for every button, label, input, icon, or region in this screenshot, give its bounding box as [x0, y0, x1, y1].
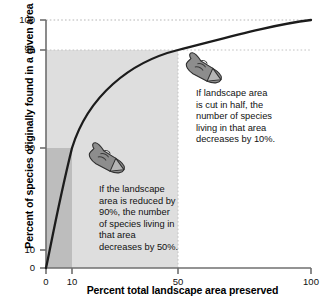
annotation-lower-line-3: of species living in — [99, 219, 178, 231]
y-axis-ticks — [40, 20, 46, 268]
x-axis-title: Percent total landscape area preserved — [40, 284, 325, 296]
annotation-lower: If the landscape area is reduced by 90%,… — [99, 184, 178, 254]
annotation-upper-line-3: living in that area — [196, 123, 275, 135]
annotation-upper: If landscape area is cut in half, the nu… — [196, 88, 275, 146]
annotation-upper-line-0: If landscape area — [196, 88, 275, 100]
annotation-upper-line-2: number of species — [196, 111, 275, 123]
species-area-chart: 100 90 50 10 0 0 10 50 100 Percent of sp… — [0, 0, 325, 301]
annotation-lower-line-4: that area — [99, 230, 178, 242]
pointing-hand-icon-lower — [84, 142, 130, 180]
chart-canvas — [0, 0, 325, 301]
annotation-upper-line-4: decreases by 10%. — [196, 134, 275, 146]
y-axis-title: Percent of species originally found in a… — [23, 1, 35, 251]
annotation-upper-line-1: is cut in half, the — [196, 100, 275, 112]
pointing-hand-icon-upper — [181, 52, 227, 90]
y-tick-label-0: 0 — [5, 262, 35, 273]
annotation-lower-line-0: If the landscape — [99, 184, 178, 196]
x-axis-ticks — [46, 268, 311, 274]
annotation-lower-line-2: 90%, the number — [99, 207, 178, 219]
annotation-lower-line-5: decreases by 50%. — [99, 242, 178, 254]
annotation-lower-line-1: area is reduced by — [99, 196, 178, 208]
